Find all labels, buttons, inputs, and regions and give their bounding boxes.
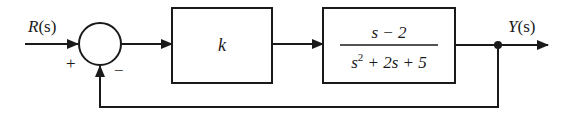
output-label: Y(s) xyxy=(508,17,535,36)
input-label: R(s) xyxy=(27,17,56,36)
minus-sign: − xyxy=(114,61,124,80)
block-diagram: R(s) + − k s − 2 s2 + 2s + 5 Y(s) xyxy=(0,0,575,113)
summing-junction xyxy=(79,23,121,65)
plant-numerator: s − 2 xyxy=(371,23,407,42)
plus-sign: + xyxy=(66,54,76,73)
gain-label: k xyxy=(218,35,227,55)
plant-denominator: s2 + 2s + 5 xyxy=(351,51,427,72)
feedback-path xyxy=(100,45,498,107)
